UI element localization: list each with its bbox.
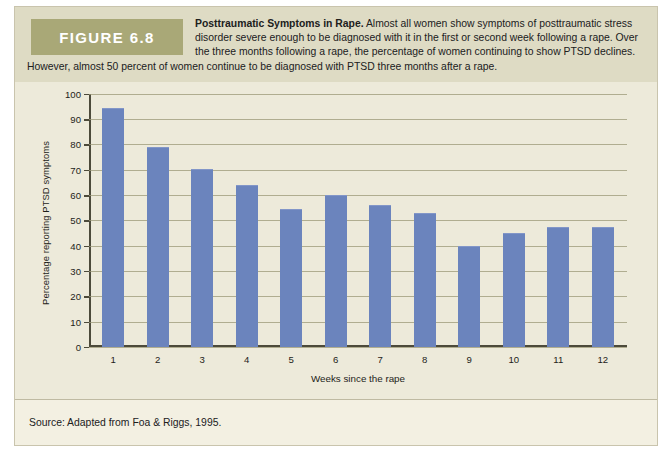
bar-slot: 4 [225,94,270,347]
y-axis-tick-label: 90 [70,114,81,125]
bar[interactable] [147,147,169,347]
chart-region: Percentage reporting PTSD symptoms 10090… [15,82,657,400]
y-axis-tick-label: 60 [70,190,81,201]
x-axis-tick-label: 2 [155,354,160,365]
y-axis-tick-label: 20 [70,291,81,302]
x-axis-tick-label: 1 [111,354,116,365]
y-axis-title-label: Percentage reporting PTSD symptoms [40,141,51,305]
bar[interactable] [369,205,391,346]
bar-slot: 2 [136,94,181,347]
y-axis-title: Percentage reporting PTSD symptoms [37,92,53,354]
y-axis-tick-label: 50 [70,215,81,226]
bar-slot: 1 [91,94,136,347]
x-axis-tick-label: 9 [467,354,472,365]
bar[interactable] [191,169,213,347]
y-axis-tick-label: 80 [70,139,81,150]
y-axis-tick-label: 70 [70,164,81,175]
bar[interactable] [236,185,258,347]
bar-slot: 10 [492,94,537,347]
x-axis-tick-label: 3 [200,354,205,365]
y-axis-tick-label: 100 [65,88,81,99]
bar[interactable] [547,227,569,347]
y-axis-tick-label: 10 [70,316,81,327]
bar[interactable] [280,209,302,347]
x-axis-tick-label: 12 [597,354,608,365]
x-axis-tick-label: 7 [378,354,383,365]
x-axis-tick-label: 5 [289,354,294,365]
figure-source-band: Source: Adapted from Foa & Riggs, 1995. [15,399,657,445]
y-axis-tick-label: 0 [76,341,81,352]
x-axis-tick-label: 4 [244,354,249,365]
bar-slot: 11 [536,94,581,347]
figure-card: FIGURE 6.8 Posttraumatic Symptoms in Rap… [14,6,658,446]
bar[interactable] [458,246,480,347]
x-axis-tick-label: 8 [422,354,427,365]
plot-area: 1009080706050403020100 123456789101112 [89,94,627,347]
bars-group: 123456789101112 [89,94,627,347]
x-axis-tick-label: 6 [333,354,338,365]
figure-caption-band: FIGURE 6.8 Posttraumatic Symptoms in Rap… [15,7,657,82]
figure-source-text: Source: Adapted from Foa & Riggs, 1995. [29,417,221,428]
bar[interactable] [592,227,614,347]
figure-number-badge: FIGURE 6.8 [31,19,183,55]
chart-canvas: Percentage reporting PTSD symptoms 10090… [15,82,657,400]
y-axis-tick-label: 40 [70,240,81,251]
bar[interactable] [102,108,124,347]
y-axis-tick-label: 30 [70,265,81,276]
bar-slot: 7 [358,94,403,347]
gridline [89,347,627,348]
x-axis-title: Weeks since the rape [89,373,627,384]
x-axis-tick-label: 11 [553,354,563,365]
bar-slot: 3 [180,94,225,347]
bar[interactable] [325,195,347,347]
y-axis-tick [84,347,89,349]
bar[interactable] [414,213,436,347]
figure-caption-title: Posttraumatic Symptoms in Rape. [195,18,364,29]
x-axis-tick-label: 10 [508,354,519,365]
bar-slot: 5 [269,94,314,347]
bar-slot: 8 [403,94,448,347]
bar-slot: 6 [314,94,359,347]
bar-slot: 9 [447,94,492,347]
bar-slot: 12 [581,94,626,347]
bar[interactable] [503,233,525,347]
